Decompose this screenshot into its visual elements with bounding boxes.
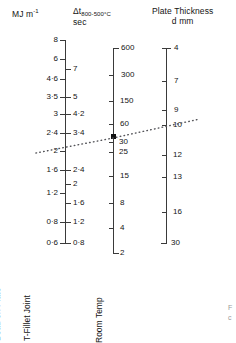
tick-label-plate-thickness: 30 (171, 239, 180, 247)
tick-label-cooling-time: 60 (120, 120, 129, 128)
tick-label-cooling-time: 8 (120, 199, 124, 207)
axis-cap-plate-thickness-bottom (161, 243, 167, 244)
tick-label-plate-thickness: 4 (174, 44, 178, 52)
axis-header-cooling-time-unit: sec (73, 17, 87, 27)
tick-label-heat-input-right: 1·6 (73, 199, 85, 207)
tick-label-plate-thickness: 9 (174, 106, 178, 114)
tick-heat-input-right (65, 203, 71, 204)
tick-label-cooling-time: 15 (120, 172, 129, 180)
tick-plate-thickness (162, 81, 167, 82)
axis-line-heat-input (65, 40, 66, 244)
corner-note-line-1: F (228, 304, 232, 312)
tick-label-plate-thickness: 12 (173, 151, 182, 159)
tick-heat-input-right (65, 170, 71, 171)
tick-cooling-time (109, 176, 114, 177)
tick-label-heat-input-left: 1·2 (14, 189, 58, 197)
axis-header-cooling-time-range: 800-500°C (81, 11, 111, 17)
tick-plate-thickness (162, 125, 167, 126)
tick-cooling-time (109, 228, 114, 229)
tick-label-cooling-time: 2 (120, 249, 124, 257)
axis-header-cooling-time-text: Δt (73, 6, 81, 16)
tick-cooling-time (109, 203, 114, 204)
tick-cooling-time (109, 124, 114, 125)
footer-label-t-fillet-joint: T-Fillet Joint (23, 295, 32, 341)
tick-label-heat-input-left: 0·8 (14, 218, 58, 226)
tick-label-heat-input-right: 5 (73, 93, 77, 101)
tick-heat-input-right (65, 222, 71, 223)
tick-heat-input-left (60, 59, 66, 60)
tick-heat-input-left (60, 40, 66, 41)
tick-label-heat-input-right: 2 (73, 180, 77, 188)
tick-heat-input-right (65, 114, 71, 115)
axis-cap-cooling-time-top (113, 48, 119, 49)
tick-heat-input-left (60, 79, 66, 80)
axis-line-plate-thickness (166, 48, 167, 243)
tick-label-heat-input-right: 2·4 (73, 166, 85, 174)
tick-label-heat-input-right: 0·8 (73, 239, 85, 247)
axis-line-cooling-time (113, 48, 114, 253)
tick-label-cooling-time: 600 (121, 44, 134, 52)
tick-label-heat-input-right: 3·4 (73, 129, 85, 137)
tick-cooling-time (109, 101, 114, 102)
tick-heat-input-left (60, 193, 66, 194)
tick-label-cooling-time: 30 (119, 138, 128, 146)
tick-plate-thickness (162, 110, 167, 111)
tick-heat-input-right (65, 184, 71, 185)
axis-header-heat-input: MJ m-1 (12, 6, 39, 19)
footer-label-bead-on-plate: Bead on Plate (0, 288, 2, 341)
tick-label-heat-input-left: 2·4 (14, 129, 58, 137)
tick-cooling-time (109, 142, 114, 143)
tick-label-heat-input-left: 3 (14, 110, 58, 118)
tick-label-plate-thickness: 7 (174, 77, 178, 85)
footer-label-room-temp: Room Temp (95, 297, 104, 343)
tick-heat-input-right (65, 69, 71, 70)
tick-heat-input-right (65, 97, 71, 98)
tick-label-cooling-time: 150 (120, 97, 133, 105)
tick-label-plate-thickness: 10 (173, 121, 182, 129)
axis-header-heat-input-text: MJ m (12, 9, 33, 19)
tick-heat-input-left (60, 151, 66, 152)
axis-header-plate-thickness-text: Plate Thickness (152, 6, 213, 16)
tick-label-cooling-time: 25 (119, 148, 128, 156)
tick-label-heat-input-left: 4·6 (14, 75, 58, 83)
corner-note-line-2: c (228, 314, 232, 322)
tick-plate-thickness (162, 177, 167, 178)
tick-cooling-time (109, 75, 114, 76)
tick-cooling-time (109, 152, 114, 153)
tick-heat-input-right (65, 243, 71, 244)
tick-label-plate-thickness: 13 (173, 173, 182, 181)
axis-header-plate-thickness: Plate Thickness d mm (152, 6, 213, 26)
tick-plate-thickness (162, 212, 167, 213)
tick-heat-input-right (65, 133, 71, 134)
axis-cap-cooling-time-bottom (113, 253, 119, 254)
tick-label-cooling-time: 4 (120, 224, 124, 232)
tick-plate-thickness (162, 155, 167, 156)
tick-label-heat-input-left: 0·6 (14, 239, 58, 247)
tick-label-cooling-time: 300 (121, 71, 134, 79)
tick-plate-thickness (162, 48, 167, 49)
tick-label-heat-input-right: 7 (73, 65, 77, 73)
axis-header-plate-thickness-unit: d mm (172, 16, 194, 26)
reading-marker-cooling-time (111, 134, 116, 139)
tick-label-heat-input-left: 3·5 (14, 93, 58, 101)
axis-header-cooling-time: Δt800-500°C sec (73, 6, 111, 27)
axis-header-heat-input-exponent: -1 (33, 8, 39, 14)
tick-label-heat-input-right: 1·2 (73, 218, 85, 226)
tick-label-heat-input-left: 6 (14, 55, 58, 63)
tick-label-plate-thickness: 16 (173, 208, 182, 216)
tick-label-heat-input-left: 2 (14, 147, 58, 155)
tick-label-heat-input-right: 4·2 (73, 110, 85, 118)
tick-label-heat-input-left: 8 (14, 36, 58, 44)
tick-label-heat-input-left: 1·6 (14, 166, 58, 174)
